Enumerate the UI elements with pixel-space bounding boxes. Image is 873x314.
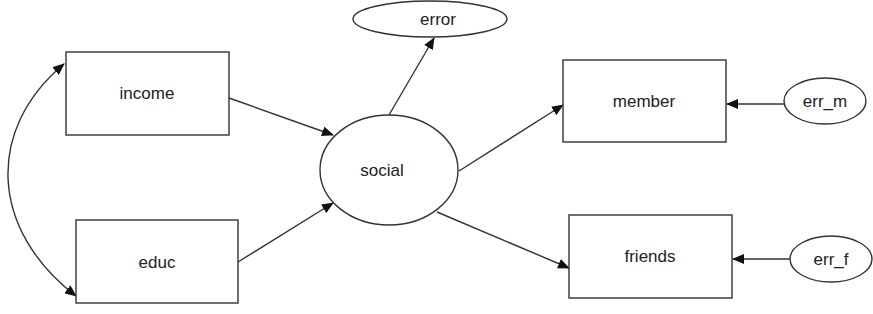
friends-label: friends (624, 247, 675, 266)
edge-income-to-social (229, 98, 333, 135)
edge-social-to-member (459, 105, 563, 171)
educ-label: educ (139, 253, 176, 272)
node-educ[interactable]: educ (76, 220, 238, 303)
node-error[interactable]: error (353, 1, 507, 37)
err-f-label: err_f (814, 250, 849, 269)
social-label: social (360, 161, 403, 180)
sem-diagram: income educ social error member friends … (0, 0, 873, 314)
node-err-f[interactable]: err_f (790, 236, 872, 282)
income-label: income (120, 84, 175, 103)
edge-social-to-friends (437, 212, 569, 268)
node-err-m[interactable]: err_m (784, 78, 866, 124)
member-label: member (613, 92, 676, 111)
edge-social-to-error (389, 38, 434, 115)
node-social[interactable]: social (320, 115, 458, 225)
node-member[interactable]: member (563, 60, 726, 142)
edge-educ-to-social (238, 203, 333, 262)
err-m-label: err_m (803, 92, 847, 111)
node-friends[interactable]: friends (569, 215, 732, 298)
node-income[interactable]: income (66, 52, 229, 135)
error-label: error (420, 10, 456, 29)
